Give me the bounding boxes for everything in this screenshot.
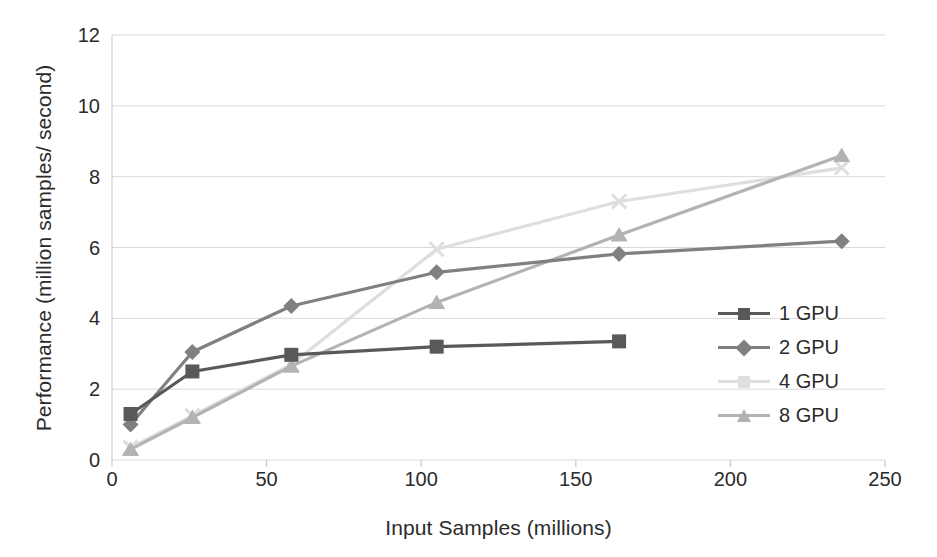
data-point-marker [429, 264, 445, 280]
plot-area [0, 0, 937, 557]
data-point-marker [284, 348, 298, 362]
legend-label: 8 GPU [770, 404, 839, 427]
data-point-marker [185, 364, 199, 378]
data-point-marker [124, 407, 138, 421]
legend-swatch [718, 338, 770, 356]
legend-label: 1 GPU [770, 302, 839, 325]
chart-legend: 1 GPU2 GPU4 GPU8 GPU [718, 296, 878, 432]
data-point-marker [283, 298, 299, 314]
legend-marker-triangle-icon [737, 409, 751, 422]
legend-swatch [718, 372, 770, 390]
legend-swatch [718, 406, 770, 424]
legend-item-2-gpu[interactable]: 2 GPU [718, 330, 878, 364]
legend-item-1-gpu[interactable]: 1 GPU [718, 296, 878, 330]
series-line [131, 341, 620, 414]
data-point-marker [833, 147, 850, 162]
performance-scaling-chart: Performance (million samples/ second) In… [0, 0, 937, 557]
legend-marker-square-icon [738, 308, 750, 320]
data-point-marker [834, 233, 850, 249]
legend-swatch [718, 304, 770, 322]
legend-item-8-gpu[interactable]: 8 GPU [718, 398, 878, 432]
legend-label: 4 GPU [770, 370, 839, 393]
data-point-marker [612, 334, 626, 348]
legend-marker-x-icon [738, 376, 750, 388]
data-point-marker [430, 340, 444, 354]
legend-item-4-gpu[interactable]: 4 GPU [718, 364, 878, 398]
data-point-marker [611, 246, 627, 262]
legend-marker-diamond-icon [736, 340, 753, 357]
legend-label: 2 GPU [770, 336, 839, 359]
